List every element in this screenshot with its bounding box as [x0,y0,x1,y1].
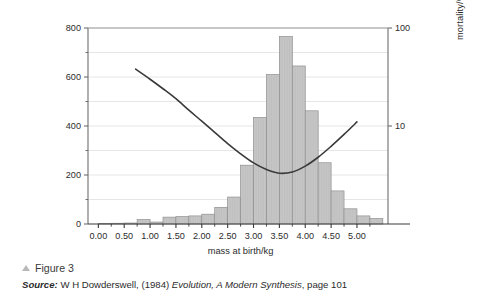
y-tick-label-right: 10 [395,121,405,131]
y-tick-label-left: 800 [66,23,81,33]
y-axis-label-right: mortality/% (log scale) [455,0,465,40]
caption-block: Figure 3 Source: W H Dowderswell, (1984)… [22,262,462,291]
x-tick-label: 0.50 [115,231,133,241]
source-page: , page 101 [302,279,347,290]
histogram-bar [202,214,215,224]
histogram-bar [266,75,279,224]
y-tick-label-left: 200 [66,170,81,180]
histogram-bar [163,217,176,224]
histogram-bar [189,216,202,224]
mortality-curve [136,69,357,173]
histogram-bar [331,191,344,224]
x-tick-label: 3.00 [245,231,263,241]
x-tick-label: 3.50 [271,231,289,241]
x-tick-label: 2.00 [193,231,211,241]
histogram-bar [370,219,383,224]
y-tick-label-left: 0 [76,219,81,229]
y-tick-label-left: 600 [66,72,81,82]
histogram-bar [305,111,318,224]
source-prefix: Source: [22,279,58,290]
x-tick-label: 4.50 [322,231,340,241]
histogram-bar [344,209,357,224]
figure-container: 0200400600800101000.000.501.001.502.002.… [0,0,481,300]
x-tick-label: 1.00 [141,231,159,241]
histogram-bar [176,217,189,224]
y-tick-label-left: 400 [66,121,81,131]
histogram-bar [137,220,150,224]
histogram-mortality-chart: 0200400600800101000.000.501.001.502.002.… [0,0,481,260]
source-author: W H Dowderswell, (1984) [60,279,169,290]
histogram-bar [241,165,254,224]
x-tick-label: 2.50 [219,231,237,241]
histogram-bar [357,216,370,224]
x-tick-label: 4.00 [296,231,314,241]
x-tick-label: 5.00 [348,231,366,241]
source-title: Evolution, A Modern Synthesis [172,279,302,290]
histogram-bar [254,117,267,224]
x-tick-label: 1.50 [167,231,185,241]
y-tick-label-right: 100 [395,23,410,33]
histogram-bar [228,197,241,224]
x-axis-label: mass at birth/kg [0,246,481,256]
triangle-up-icon [22,265,30,271]
histogram-bar [292,66,305,224]
figure-label: Figure 3 [35,262,74,274]
histogram-bar [279,37,292,224]
x-tick-label: 0.00 [89,231,107,241]
histogram-bar [215,207,228,224]
histogram-bar [318,163,331,224]
source-line: Source: W H Dowderswell, (1984) Evolutio… [22,279,462,291]
figure-caption-line: Figure 3 [22,262,462,274]
